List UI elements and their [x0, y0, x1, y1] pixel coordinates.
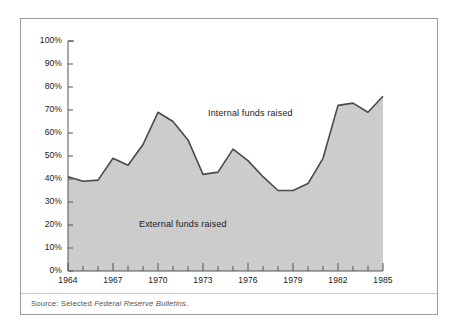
x-axis-tick-label: 1967 — [93, 276, 133, 285]
y-axis-tick-label: 30% — [18, 197, 62, 206]
x-axis-tick-label: 1982 — [318, 276, 358, 285]
annotation-internal-funds: Internal funds raised — [208, 108, 293, 118]
source-divider — [21, 293, 437, 294]
x-axis-tick-label: 1985 — [363, 276, 403, 285]
source-note: Source: Selected Federal Reserve Bulleti… — [31, 299, 188, 308]
y-axis-tick-label: 40% — [18, 174, 62, 183]
y-axis-tick-label: 0% — [18, 266, 62, 275]
y-axis-tick-label: 70% — [18, 105, 62, 114]
y-axis-tick-label: 90% — [18, 59, 62, 68]
figure-screenshot: 0%10%20%30%40%50%60%70%80%90%100% 196419… — [0, 0, 458, 333]
y-axis-tick-label: 50% — [18, 151, 62, 160]
x-axis-tick-label: 1964 — [48, 276, 88, 285]
area-external-funds — [68, 96, 383, 271]
x-axis-tick-label: 1970 — [138, 276, 178, 285]
source-suffix: . — [186, 299, 188, 308]
source-prefix: Source: Selected — [31, 299, 94, 308]
x-axis-tick-label: 1973 — [183, 276, 223, 285]
y-axis-tick-label: 60% — [18, 128, 62, 137]
y-axis-tick-label: 80% — [18, 82, 62, 91]
x-axis-tick-label: 1979 — [273, 276, 313, 285]
annotation-external-funds: External funds raised — [139, 219, 227, 229]
y-axis-tick-label: 20% — [18, 220, 62, 229]
y-axis-tick-label: 100% — [18, 36, 62, 45]
y-axis-tick-label: 10% — [18, 243, 62, 252]
source-publication: Federal Reserve Bulletins — [94, 299, 186, 308]
x-axis-tick-label: 1976 — [228, 276, 268, 285]
